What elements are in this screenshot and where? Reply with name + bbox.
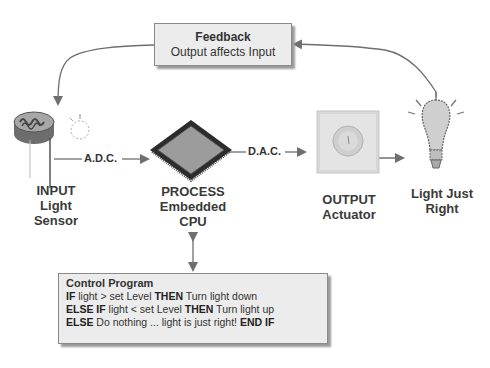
feedback-to-input-arrow xyxy=(58,45,154,104)
light-bulb-icon xyxy=(404,92,468,182)
program-line-else: ELSE Do nothing ... light is just right!… xyxy=(66,316,327,329)
dac-label: D.A.C. xyxy=(247,145,282,157)
process-label: PROCESS Embedded CPU xyxy=(148,184,238,229)
feedback-title: Feedback xyxy=(155,30,291,44)
cpu-chip-icon xyxy=(146,118,236,188)
light-sensor-icon xyxy=(8,108,98,188)
program-title: Control Program xyxy=(66,277,327,290)
adc-label: A.D.C. xyxy=(83,152,118,164)
program-line-elseif: ELSE IF light < set Level THEN Turn ligh… xyxy=(66,303,327,316)
control-program-box: Control Program IF light > set Level THE… xyxy=(58,273,328,344)
input-label: INPUT Light Sensor xyxy=(26,183,86,228)
output-label: OUTPUT Actuator xyxy=(314,192,384,222)
feedback-subtitle: Output affects Input xyxy=(155,45,291,59)
program-line-if: IF light > set Level THEN Turn light dow… xyxy=(66,290,327,303)
feedback-box: Feedback Output affects Input xyxy=(154,23,292,66)
result-label: Light Just Right xyxy=(402,186,482,216)
dimmer-actuator-icon xyxy=(316,110,380,174)
